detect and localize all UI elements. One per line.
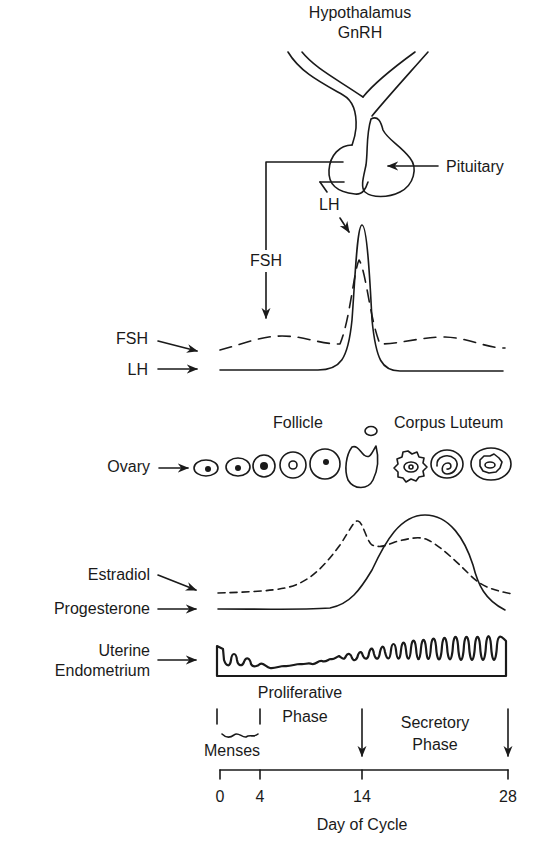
tick-14: 14 — [349, 788, 375, 806]
hypothalamus-stalk — [288, 52, 428, 145]
ovary-row — [159, 427, 511, 488]
ovary-label: Ovary — [60, 458, 150, 476]
pituitary-gland — [266, 118, 438, 318]
lh-curve-label: LH — [60, 361, 148, 379]
hypothalamus-label: Hypothalamus — [285, 4, 435, 22]
axis-label: Day of Cycle — [300, 816, 424, 834]
ovum — [365, 427, 377, 436]
menses-label: Menses — [204, 742, 260, 760]
estradiol-curve — [218, 521, 513, 594]
menses-brace — [222, 734, 258, 737]
steroid-chart — [158, 515, 513, 610]
gonadotropin-chart — [158, 225, 505, 371]
endometrium-strip — [158, 636, 506, 676]
tick-28: 28 — [495, 788, 521, 806]
secretory-label: Secretory — [385, 714, 485, 732]
fsh-pituitary-label: FSH — [250, 250, 282, 272]
progesterone-curve — [218, 515, 505, 610]
estradiol-label: Estradiol — [20, 566, 150, 584]
proliferative-label: Proliferative — [240, 684, 360, 702]
secretory-phase-label: Phase — [395, 736, 475, 754]
fsh-label-arrow — [158, 341, 197, 351]
corpus-luteum-early — [394, 451, 427, 482]
uterine-label: Uterine — [20, 642, 150, 660]
fsh-curve — [220, 260, 505, 350]
ovulating-follicle — [346, 446, 378, 488]
progesterone-label: Progesterone — [20, 600, 150, 618]
tick-4: 4 — [250, 788, 270, 806]
estradiol-label-arrow — [158, 575, 196, 590]
gnrh-label: GnRH — [300, 24, 420, 42]
pituitary-label: Pituitary — [446, 158, 504, 176]
proliferative-phase-label: Phase — [265, 708, 345, 726]
lh-peak-arrow — [340, 218, 349, 232]
follicle-antral — [280, 452, 306, 478]
fsh-curve-label: FSH — [60, 330, 148, 348]
corpus-luteum-late — [471, 448, 511, 480]
lh-pituitary-label: LH — [319, 196, 339, 214]
corpus-luteum-label: Corpus Luteum — [394, 414, 503, 432]
tick-0: 0 — [210, 788, 230, 806]
lh-curve — [220, 225, 503, 371]
endometrium-label: Endometrium — [20, 662, 150, 680]
follicle-label: Follicle — [273, 414, 323, 432]
